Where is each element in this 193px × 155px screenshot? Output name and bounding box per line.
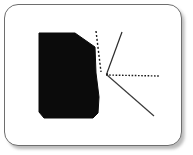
diagram-canvas: [0, 0, 193, 155]
horizontal-dotted-line: [106, 75, 159, 76]
vertical-dashed-line: [96, 31, 101, 72]
black-polygon-shape: [39, 33, 99, 118]
convergence-point-vertex: [106, 73, 108, 75]
figure-root: [0, 0, 193, 155]
upper-right-diagonal-line: [107, 32, 122, 73]
lower-right-diagonal-line: [107, 75, 154, 116]
